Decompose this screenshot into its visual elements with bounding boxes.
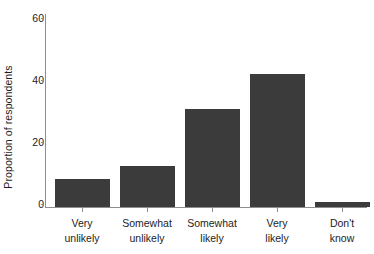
y-tick-mark-40 [41,80,44,81]
x-tick-mark-somewhat-unlikely [147,208,148,212]
y-axis-title: Proportion of respondents [0,0,16,254]
y-tick-mark-20 [41,142,44,143]
x-tick-label-line2: know [292,231,374,246]
plot-area [45,14,367,207]
x-tick-label-line1: Very [266,217,287,229]
x-tick-label-line1: Very [71,217,92,229]
x-tick-label-dont-know: Don't know [292,216,374,246]
x-tick-mark-somewhat-likely [212,208,213,212]
x-tick-mark-very-likely [277,208,278,212]
x-axis-line [45,207,367,208]
bar-dont-know [315,202,370,207]
x-tick-mark-very-unlikely [82,208,83,212]
y-tick-mark-0 [41,204,44,205]
bar-very-unlikely [55,179,110,207]
x-tick-label-line1: Don't [330,217,354,229]
bar-somewhat-likely [185,109,240,207]
x-tick-mark-dont-know [342,208,343,212]
y-tick-mark-60 [41,18,44,19]
bar-very-likely [250,74,305,207]
bar-somewhat-unlikely [120,166,175,207]
